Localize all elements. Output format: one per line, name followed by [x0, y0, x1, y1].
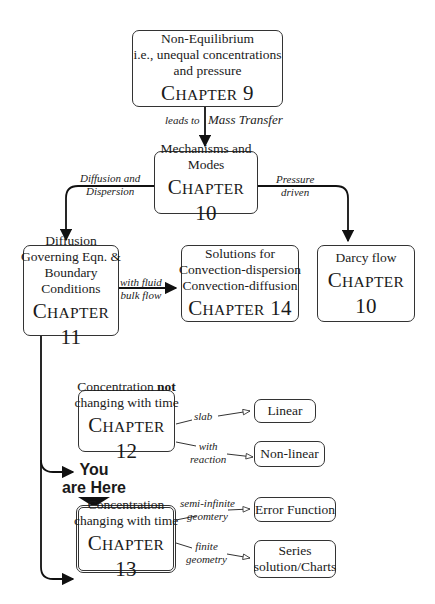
edge-label-slab: slab: [194, 410, 212, 423]
edge-label-leads-to: leads to: [165, 114, 200, 127]
node-text: Convection-diffusion: [182, 278, 297, 294]
edge-label-diffusion: Diffusion andDispersion: [80, 172, 140, 198]
node-text: i.e., unequal concentrations: [133, 47, 281, 63]
node-text: Conditions: [41, 281, 100, 297]
node-linear: Linear: [254, 399, 316, 423]
edge-label-finite: finitegeometry: [186, 540, 227, 566]
edge-label-pressure: Pressuredriven: [276, 173, 314, 199]
chapter-label: CHAPTER 13: [79, 531, 173, 581]
node-chapter-10-darcy: Darcy flow CHAPTER 10: [317, 245, 415, 322]
edge-label-fluid: with fluidbulk flow: [120, 276, 162, 302]
chapter-label: CHAPTER 9: [161, 81, 254, 107]
node-text: Solutions for: [205, 246, 275, 262]
chapter-label: CHAPTER 11: [24, 299, 118, 349]
node-error-function: Error Function: [254, 497, 336, 522]
chapter-label: CHAPTER 14: [188, 296, 292, 322]
node-text: changing with time: [74, 395, 178, 411]
node-text: Darcy flow: [335, 250, 396, 266]
node-text: changing with time: [74, 513, 178, 529]
you-are-here-marker: Youare Here: [60, 461, 128, 497]
chapter-label: CHAPTER 12: [79, 413, 174, 463]
edge-label-semi-infinite: semi-infinitegeomtery: [180, 497, 235, 523]
node-chapter-13: Concentration changing with time CHAPTER…: [76, 505, 176, 573]
node-series-solution: Series solution/Charts: [254, 540, 336, 578]
node-text: Convection-dispersion: [179, 262, 301, 278]
node-chapter-11: Diffusion Governing Eqn. & Boundary Cond…: [23, 245, 119, 336]
node-text: Non-Equilibrium: [161, 31, 254, 47]
node-text: Diffusion: [45, 233, 97, 249]
edge-label-mass-transfer: Mass Transfer: [208, 113, 283, 126]
edge-label-reaction: withreaction: [190, 440, 226, 466]
node-chapter-14: Solutions for Convection-dispersion Conv…: [181, 245, 299, 322]
node-text: Concentration not: [77, 379, 176, 395]
chapter-label: CHAPTER 10: [155, 175, 257, 225]
chapter-label: CHAPTER 10: [318, 268, 414, 318]
node-text: and pressure: [174, 63, 242, 79]
node-chapter-10-modes: Mechanisms and Modes CHAPTER 10: [154, 151, 258, 214]
node-text: Mechanisms and: [160, 141, 251, 157]
node-chapter-9: Non-Equilibrium i.e., unequal concentrat…: [132, 30, 283, 107]
node-text: Modes: [188, 157, 225, 173]
node-nonlinear: Non-linear: [254, 441, 325, 467]
node-text: Boundary: [44, 265, 97, 281]
node-chapter-12: Concentration not changing with time CHA…: [78, 390, 175, 452]
node-text: Concentration: [88, 497, 164, 513]
node-text: Governing Eqn. &: [21, 249, 121, 265]
